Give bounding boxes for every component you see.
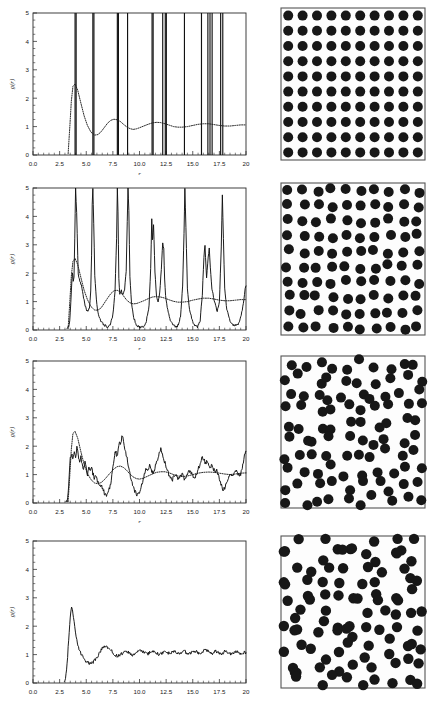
particle <box>298 71 308 81</box>
particle <box>344 621 354 631</box>
svg-text:5: 5 <box>26 9 30 16</box>
particle <box>311 321 321 331</box>
particle <box>384 41 394 51</box>
particle <box>320 589 330 599</box>
svg-text:7.5: 7.5 <box>109 508 118 515</box>
particle <box>400 438 410 448</box>
particle <box>355 117 365 127</box>
particle <box>370 132 380 142</box>
svg-text:1: 1 <box>26 651 30 658</box>
particle <box>356 500 366 510</box>
particle <box>352 593 362 603</box>
particle <box>413 56 423 66</box>
particle <box>376 476 386 486</box>
particle <box>326 132 336 142</box>
particle <box>341 117 351 127</box>
particle <box>312 132 322 142</box>
particle <box>373 595 383 605</box>
svg-text:5: 5 <box>26 537 30 544</box>
particle <box>413 11 423 21</box>
particle <box>355 233 365 243</box>
particle <box>319 616 329 626</box>
particle <box>284 244 294 254</box>
particle <box>370 102 380 112</box>
particle <box>372 323 382 333</box>
particle <box>324 431 334 441</box>
particle <box>358 680 368 690</box>
particle <box>341 56 351 66</box>
particle <box>413 117 423 127</box>
particle <box>384 487 394 497</box>
particle <box>370 41 380 51</box>
panel-row-1: 0123450.02.55.07.510.012.515.017.520g(r)… <box>0 0 438 175</box>
particle <box>398 87 408 97</box>
particle <box>390 658 400 668</box>
svg-text:15.0: 15.0 <box>187 160 200 167</box>
particle <box>298 41 308 51</box>
particle <box>284 305 294 315</box>
particle <box>384 56 394 66</box>
particle <box>392 534 402 544</box>
particle <box>399 199 409 209</box>
particle <box>384 117 394 127</box>
particle <box>283 26 293 36</box>
particle <box>298 117 308 127</box>
particle <box>326 26 336 36</box>
particle <box>363 562 373 572</box>
particle <box>362 608 372 618</box>
particle <box>398 117 408 127</box>
particle <box>325 279 335 289</box>
snapshot-panel-2 <box>268 175 438 350</box>
particle <box>397 308 407 318</box>
particle <box>352 378 362 388</box>
particle <box>341 102 351 112</box>
particle <box>369 290 379 300</box>
particle <box>328 292 338 302</box>
svg-text:0.0: 0.0 <box>29 335 38 342</box>
particle <box>298 11 308 21</box>
particle <box>413 26 423 36</box>
particle <box>399 563 409 573</box>
svg-text:0.0: 0.0 <box>29 508 38 515</box>
particle <box>312 102 322 112</box>
particle <box>283 71 293 81</box>
particle <box>344 399 354 409</box>
particle <box>326 147 336 157</box>
particle <box>386 322 396 332</box>
particle <box>355 87 365 97</box>
particle <box>281 263 291 273</box>
particle <box>284 422 294 432</box>
particle <box>334 647 344 657</box>
particle <box>325 183 335 193</box>
particle <box>293 534 303 544</box>
particle <box>414 202 424 212</box>
particle <box>328 306 338 316</box>
particle <box>298 323 308 333</box>
particle <box>326 56 336 66</box>
svg-text:0: 0 <box>26 151 30 158</box>
particle <box>355 11 365 21</box>
particle <box>327 670 337 680</box>
particle <box>290 613 300 623</box>
particle <box>400 325 410 335</box>
svg-text:10.0: 10.0 <box>133 688 146 695</box>
particle <box>283 11 293 21</box>
particle <box>369 232 379 242</box>
particle <box>399 479 409 489</box>
particle <box>343 637 353 647</box>
particle <box>279 621 289 631</box>
svg-text:15.0: 15.0 <box>187 688 200 695</box>
particle <box>377 567 387 577</box>
particle <box>328 233 338 243</box>
particle <box>321 372 331 382</box>
particle <box>326 214 336 224</box>
particle <box>380 605 390 615</box>
particle <box>369 363 379 373</box>
svg-text:2: 2 <box>26 95 30 102</box>
particle <box>369 536 379 546</box>
particle <box>358 476 368 486</box>
particle <box>387 678 397 688</box>
particle <box>398 71 408 81</box>
particle <box>296 400 306 410</box>
particle <box>326 11 336 21</box>
